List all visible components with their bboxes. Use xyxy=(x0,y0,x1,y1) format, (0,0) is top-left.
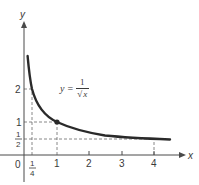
point-one-one xyxy=(54,119,59,124)
x-tick-label-4: 4 xyxy=(151,158,157,169)
x-tick-label-1: 1 xyxy=(54,158,60,169)
curve-inverse-sqrt xyxy=(28,56,170,140)
x-axis-arrow-icon xyxy=(179,152,186,158)
x-tick-label-quarter-den: 4 xyxy=(30,169,35,178)
equation-lhs: y xyxy=(60,83,64,94)
x-ticks xyxy=(89,151,154,155)
equation-denominator: √x xyxy=(77,89,87,99)
y-tick-label-half-num: 1 xyxy=(16,130,21,139)
reference-lines xyxy=(24,89,154,155)
equation-equals: = xyxy=(67,83,73,94)
equation-fraction: 1 √x xyxy=(76,78,89,99)
y-tick-label-2: 2 xyxy=(15,84,21,95)
x-tick-label-3: 3 xyxy=(119,158,125,169)
y-tick-label-1: 1 xyxy=(16,117,22,128)
x-tick-label-quarter-num: 1 xyxy=(30,159,35,168)
x-axis-label: x xyxy=(187,150,194,161)
y-axis-arrow-icon xyxy=(21,21,27,28)
y-axis-label: y xyxy=(19,9,26,20)
function-graph: y x 0 1 4 1 2 3 4 2 1 1 2 y = 1 √x xyxy=(0,0,199,185)
x-tick-label-2: 2 xyxy=(86,158,92,169)
origin-label: 0 xyxy=(15,159,21,170)
equation-label: y = 1 √x xyxy=(60,78,89,99)
equation-radicand: x xyxy=(82,88,87,99)
y-tick-label-half-den: 2 xyxy=(16,140,21,149)
